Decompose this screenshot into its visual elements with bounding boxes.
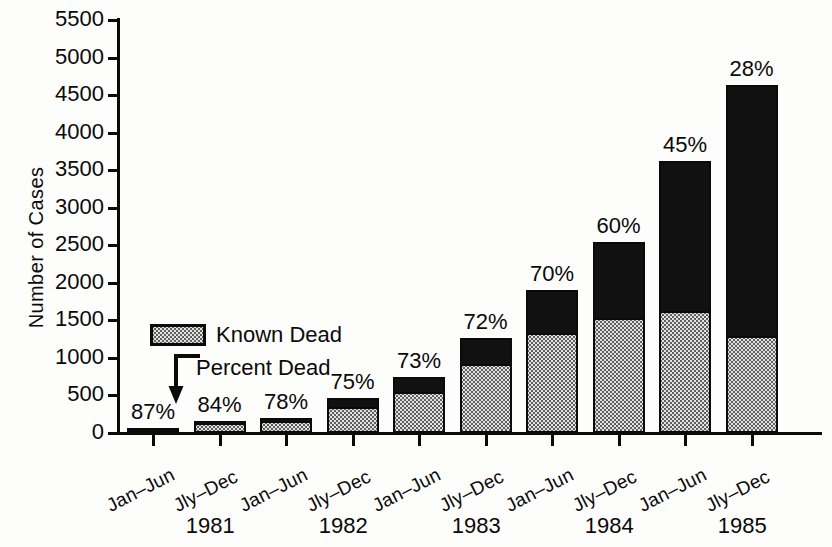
percent-dead-arrow-icon [166,352,202,408]
bar-segment-known-dead [526,333,578,433]
year-label-1985: 1985 [682,513,802,539]
x-axis-tickmark [751,435,754,446]
percent-dead-label: 45% [645,132,725,158]
percent-dead-label: 73% [379,348,459,374]
bar-Jan-Jun-1982 [260,418,312,433]
y-axis-tick-4500: 4500 [55,84,104,104]
y-axis-tickmark [108,57,119,60]
y-axis-tick-3500: 3500 [55,159,104,179]
percent-dead-label: 28% [712,56,792,82]
x-axis-tickmark [352,435,355,446]
x-axis-label-jan-jun-1984: Jan–Jun [502,464,577,517]
y-axis-tick-5500: 5500 [55,9,104,29]
y-axis-tick-5000: 5000 [55,47,104,67]
y-axis-tickmark [108,244,119,247]
chart-canvas: Number of Cases 550050004500400035003000… [0,0,832,547]
x-axis-label-jan-jun-1982: Jan–Jun [236,464,311,517]
x-axis-tickmark [152,435,155,446]
x-axis-tickmark [684,435,687,446]
y-axis-tick-labels: 5500500045004000350030002500200015001000… [0,0,104,547]
legend-label-percent-dead: Percent Dead [196,355,331,381]
y-axis-tickmark [108,319,119,322]
y-axis-tickmark [108,282,119,285]
year-label-1983: 1983 [416,513,536,539]
bar-segment-known-dead [127,429,179,433]
bar-Jly-Dec-1984 [593,242,645,433]
x-axis-label-jan-jun-1985: Jan–Jun [635,464,710,517]
y-axis-tickmark [108,207,119,210]
y-axis-tick-1000: 1000 [55,347,104,367]
x-axis-label-jly-dec-1981: Jly–Dec [170,466,241,517]
y-axis-tickmark [108,357,119,360]
bar-segment-known-dead [593,318,645,433]
x-axis-label-jly-dec-1984: Jly–Dec [569,466,640,517]
bar-Jly-Dec-1985 [726,85,778,433]
y-axis-tickmark [108,94,119,97]
x-axis-label-jly-dec-1985: Jly–Dec [702,466,773,517]
y-axis-tick-4000: 4000 [55,122,104,142]
legend-swatch-known-dead [150,324,206,346]
y-axis-tick-2000: 2000 [55,272,104,292]
x-axis-label-jan-jun-1981: Jan–Jun [103,464,178,517]
x-axis-label-jan-jun-1983: Jan–Jun [369,464,444,517]
bar-Jly-Dec-1982 [327,398,379,433]
bar-segment-known-dead [659,311,711,433]
y-axis-tick-3000: 3000 [55,197,104,217]
y-axis-line [117,18,120,435]
bar-Jan-Jun-1985 [659,161,711,433]
bar-Jan-Jun-1981 [127,428,179,433]
x-axis-label-jly-dec-1982: Jly–Dec [303,466,374,517]
y-axis-tick-500: 500 [67,384,104,404]
bar-segment-known-dead [260,421,312,433]
bar-segment-known-dead [393,392,445,433]
percent-dead-label: 72% [446,309,526,335]
x-axis-tickmark [618,435,621,446]
bar-segment-known-dead [194,423,246,433]
bar-segment-known-dead [460,364,512,433]
y-axis-tickmark [108,132,119,135]
y-axis-tick-1500: 1500 [55,309,104,329]
y-axis-tick-2500: 2500 [55,234,104,254]
x-axis-tickmark [219,435,222,446]
y-axis-tick-0: 0 [92,422,104,442]
bar-segment-known-dead [726,336,778,433]
percent-dead-label: 60% [579,213,659,239]
y-axis-tickmark [108,169,119,172]
y-axis-tickmark [108,19,119,22]
year-label-1981: 1981 [150,513,270,539]
x-axis-tickmark [485,435,488,446]
bar-Jan-Jun-1984 [526,290,578,433]
bar-Jly-Dec-1981 [194,421,246,433]
y-axis-tickmark [108,432,119,435]
bar-Jan-Jun-1983 [393,377,445,433]
x-axis-tickmark [551,435,554,446]
bar-Jly-Dec-1983 [460,338,512,433]
year-label-1984: 1984 [549,513,669,539]
x-axis-tickmark [285,435,288,446]
year-label-1982: 1982 [283,513,403,539]
legend-label-known-dead: Known Dead [216,322,342,348]
bar-segment-known-dead [327,407,379,433]
y-axis-tickmark [108,394,119,397]
percent-dead-label: 70% [512,261,592,287]
x-axis-label-jly-dec-1983: Jly–Dec [436,466,507,517]
x-axis-tickmark [418,435,421,446]
